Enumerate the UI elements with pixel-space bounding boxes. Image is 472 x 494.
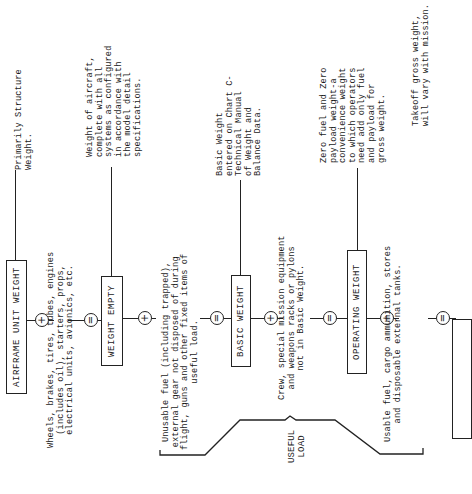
gross-weight-box [452, 319, 472, 439]
useful-load-label: USEFUL LOAD [287, 430, 307, 463]
